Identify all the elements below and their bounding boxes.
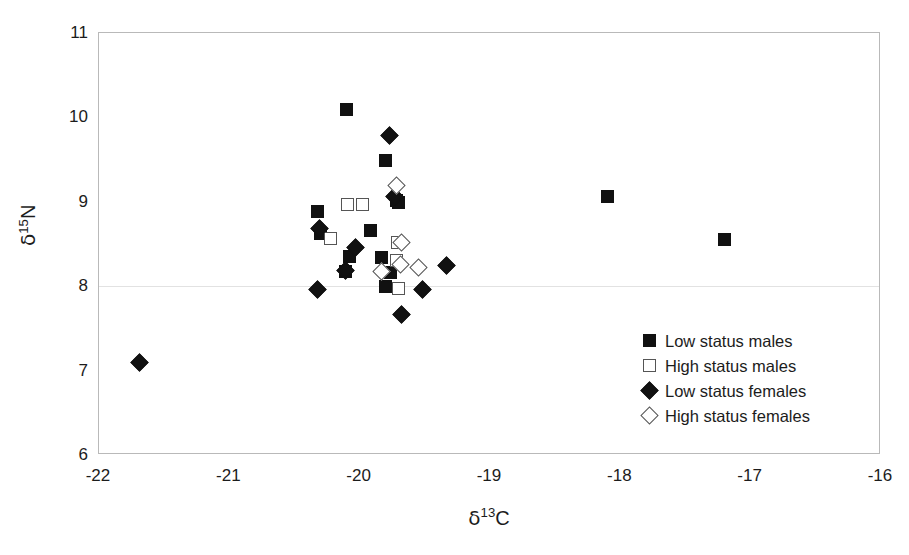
y-axis-tick-label: 8 [48, 277, 88, 294]
x-axis-title: δ13C [98, 505, 880, 530]
x-axis-tick-label: -22 [68, 467, 128, 484]
data-point-filled-square [379, 154, 392, 167]
data-point-open-square [392, 282, 405, 295]
data-point-filled-diamond [130, 353, 148, 371]
y-axis-tick-label: 7 [48, 362, 88, 379]
data-point-filled-diamond [309, 280, 327, 298]
data-point-open-diamond [409, 258, 427, 276]
data-point-filled-square [601, 190, 614, 203]
x-axis-tick-label: -16 [850, 467, 909, 484]
x-axis-tick-label: -18 [589, 467, 649, 484]
legend-label: High status males [665, 357, 796, 375]
data-point-filled-diamond [392, 306, 410, 324]
legend-swatch-filled-diamond [640, 382, 658, 400]
legend-label: Low status males [665, 332, 792, 350]
data-point-filled-square [340, 103, 353, 116]
legend-label: High status females [665, 407, 810, 425]
legend-item: Low status females [640, 378, 855, 403]
filled-square-icon [643, 334, 656, 347]
y-axis-tick-label: 11 [48, 24, 88, 41]
x-axis-delta-symbol: δ [468, 506, 480, 530]
filled-diamond-icon [640, 381, 658, 399]
y-axis-tick-labels: 11109876 [40, 32, 88, 454]
x-axis-tick-labels: -22-21-20-19-18-17-16 [98, 467, 880, 491]
gridline-y8 [99, 286, 879, 287]
scatter-plot-figure: 11109876 δ15N -22-21-20-19-18-17-16 δ13C… [0, 0, 909, 555]
data-point-filled-diamond [438, 256, 456, 274]
data-point-filled-diamond [380, 127, 398, 145]
open-diamond-icon [640, 406, 658, 424]
x-axis-tick-label: -17 [720, 467, 780, 484]
legend-swatch-filled-square [640, 332, 658, 350]
legend-label: Low status females [665, 382, 806, 400]
legend-swatch-open-square [640, 357, 658, 375]
data-point-filled-square [379, 280, 392, 293]
x-axis-superscript: 13 [481, 505, 496, 520]
x-axis-tick-label: -19 [459, 467, 519, 484]
data-point-filled-square [364, 224, 377, 237]
y-axis-tick-label: 9 [48, 193, 88, 210]
legend: Low status malesHigh status malesLow sta… [640, 328, 855, 428]
open-square-icon [643, 359, 656, 372]
y-axis-superscript: 15 [16, 219, 31, 234]
data-point-open-square [356, 198, 369, 211]
y-axis-delta-symbol: δ [16, 234, 40, 246]
data-point-filled-diamond [413, 280, 431, 298]
data-point-open-square [324, 232, 337, 245]
y-axis-tick-label: 10 [48, 108, 88, 125]
x-axis-tick-label: -21 [198, 467, 258, 484]
data-point-open-square [341, 198, 354, 211]
y-axis-element: N [17, 205, 39, 219]
legend-item: High status males [640, 353, 855, 378]
y-axis-title: δ15N [16, 135, 41, 315]
legend-swatch-open-diamond [640, 407, 658, 425]
x-axis-element: C [495, 507, 509, 529]
legend-item: Low status males [640, 328, 855, 353]
data-point-filled-square [311, 205, 324, 218]
y-axis-tick-label: 6 [48, 446, 88, 463]
x-axis-tick-label: -20 [329, 467, 389, 484]
legend-item: High status females [640, 403, 855, 428]
data-point-filled-square [718, 233, 731, 246]
